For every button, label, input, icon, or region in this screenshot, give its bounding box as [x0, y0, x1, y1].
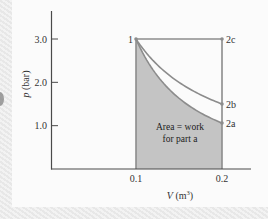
- x-tick-label: 0.1: [130, 173, 143, 184]
- pv-diagram: 1.02.03.00.10.2 12a2b2c Area = work for …: [0, 0, 268, 219]
- x-axis-title: V (m3): [167, 189, 193, 202]
- state-point-1: [134, 37, 138, 41]
- shaded-work-area: [136, 39, 222, 169]
- state-label-2b: 2b: [226, 99, 236, 110]
- y-tick-label: 3.0: [35, 34, 48, 45]
- y-axis-title: p (bar): [20, 71, 32, 99]
- area-annotation-line1: Area = work: [156, 122, 204, 132]
- area-annotation-line2: for part a: [163, 134, 199, 144]
- state-point-2b: [220, 102, 224, 106]
- state-label-1: 1: [128, 34, 133, 45]
- y-tick-label: 1.0: [35, 120, 48, 131]
- state-point-2c: [220, 37, 224, 41]
- state-point-2a: [220, 121, 224, 125]
- x-tick-label: 0.2: [216, 173, 229, 184]
- work-area-shading: [136, 39, 222, 169]
- state-label-2a: 2a: [226, 118, 236, 129]
- state-label-2c: 2c: [226, 34, 236, 45]
- y-tick-label: 2.0: [35, 77, 48, 88]
